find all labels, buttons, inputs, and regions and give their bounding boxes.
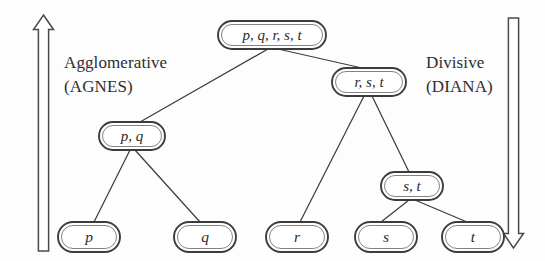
- node-pq[interactable]: p, q: [99, 122, 165, 150]
- edge-root-rst: [278, 49, 362, 68]
- node-root[interactable]: p, q, r, s, t: [218, 21, 326, 49]
- agglomerative-label-line2: (AGNES): [64, 77, 133, 96]
- node-leaf-q[interactable]: q: [174, 222, 236, 252]
- node-st[interactable]: s, t: [381, 172, 443, 200]
- node-leaf-s-label: s: [383, 228, 389, 245]
- node-leaf-r-label: r: [294, 228, 301, 245]
- arrow-down-icon: [504, 18, 524, 248]
- edge-st-leaf-s: [381, 200, 409, 222]
- node-rst-label: r, s, t: [354, 74, 384, 90]
- node-leaf-q-label: q: [201, 228, 209, 245]
- node-leaf-r[interactable]: r: [266, 222, 328, 252]
- divisive-label-line1: Divisive: [426, 53, 484, 72]
- divisive-label: Divisive (DIANA): [426, 53, 493, 96]
- node-leaf-t[interactable]: t: [442, 222, 504, 252]
- edge-pq-leaf-p: [94, 150, 130, 222]
- node-leaf-p[interactable]: p: [58, 222, 120, 252]
- edge-pq-leaf-q: [135, 150, 200, 222]
- node-pq-label: p, q: [120, 128, 144, 144]
- node-leaf-s[interactable]: s: [355, 222, 417, 252]
- node-root-label: p, q, r, s, t: [241, 27, 302, 43]
- node-st-label: s, t: [403, 178, 421, 194]
- node-leaf-p-label: p: [84, 228, 93, 245]
- edge-rst-leaf-r: [300, 96, 364, 222]
- arrow-up-icon: [34, 15, 54, 251]
- edge-rst-st: [372, 96, 409, 172]
- dendrogram-figure: p, q, r, s, t r, s, t p, q s, t p q: [0, 0, 545, 261]
- node-rst[interactable]: r, s, t: [332, 68, 406, 96]
- node-leaf-t-label: t: [471, 228, 476, 245]
- edge-st-leaf-t: [415, 200, 467, 222]
- agglomerative-label: Agglomerative (AGNES): [64, 53, 167, 96]
- divisive-label-line2: (DIANA): [426, 77, 493, 96]
- agglomerative-label-line1: Agglomerative: [64, 53, 167, 72]
